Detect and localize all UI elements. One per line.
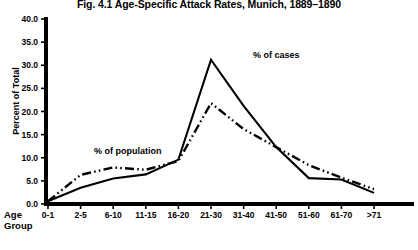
x-axis-tick-label: 61-70 <box>331 210 353 220</box>
x-axis-tick-label: 2-5 <box>74 210 86 220</box>
x-axis-tick-label: 21-30 <box>200 210 222 220</box>
annotation-cases: % of cases <box>253 50 300 60</box>
x-axis-tick-label: 31-40 <box>233 210 255 220</box>
x-axis-title-line2: Group <box>4 220 33 231</box>
x-axis-title-line1: Age <box>4 209 33 220</box>
x-axis-tick-label: >71 <box>367 210 381 220</box>
x-axis-tick-label: 11-15 <box>135 210 156 220</box>
x-axis-tick-label: 0-1 <box>42 210 54 220</box>
x-axis-tick-label: 6-10 <box>105 210 122 220</box>
axis-lines <box>44 17 414 205</box>
figure-container: Fig. 4.1 Age-Specific Attack Rates, Muni… <box>0 0 418 250</box>
x-axis-title: Age Group <box>4 209 33 231</box>
x-axis-tick-label: 16-20 <box>168 210 190 220</box>
x-axis-tick-label: 51-60 <box>298 210 320 220</box>
series-line-cases <box>48 60 374 202</box>
annotation-population: % of population <box>94 146 162 156</box>
x-axis-tick-label: 41-50 <box>265 210 287 220</box>
